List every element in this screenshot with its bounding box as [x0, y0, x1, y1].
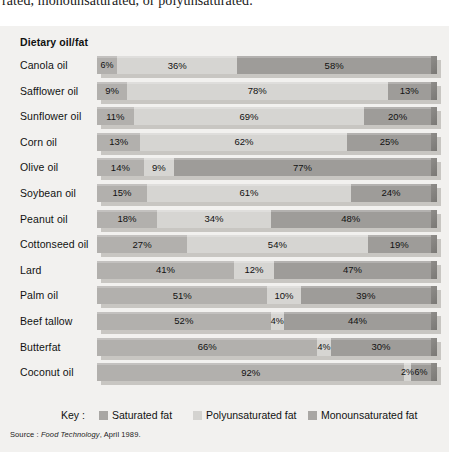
- bar-segment-value: 54%: [268, 239, 287, 250]
- bar-segment-poly: 54%: [187, 235, 367, 253]
- bar-row-label: Butterfat: [20, 341, 61, 353]
- bar-segment-value: 62%: [234, 136, 253, 147]
- stacked-bar: 9%78%13%: [97, 82, 431, 100]
- bar-segment-poly: 2%: [404, 363, 411, 381]
- bar-3d-cap: [431, 363, 437, 381]
- bar-segment-poly: 34%: [157, 210, 271, 228]
- bar-segment-value: 4%: [318, 342, 331, 352]
- bar-segment-value: 14%: [111, 162, 130, 173]
- bar-track: 14%9%77%: [97, 158, 437, 176]
- bar-segment-value: 58%: [325, 60, 344, 71]
- bar-segment-sat: 66%: [97, 338, 317, 356]
- bar-segment-value: 66%: [198, 341, 217, 352]
- bar-track: 11%69%20%: [97, 107, 437, 125]
- stacked-bar: 52%4%44%: [97, 312, 431, 330]
- bar-segment-value: 48%: [341, 213, 360, 224]
- bar-segment-value: 51%: [173, 290, 192, 301]
- legend-label: Polyunsaturated fat: [206, 409, 296, 421]
- bar-row-label: Canola oil: [20, 59, 68, 71]
- bar-segment-value: 25%: [380, 136, 399, 147]
- bar-3d-cap: [431, 133, 437, 151]
- bar-segment-mono: 20%: [364, 107, 431, 125]
- bar-segment-value: 18%: [118, 213, 137, 224]
- bar-3d-cap: [431, 158, 437, 176]
- bar-segment-value: 20%: [388, 111, 407, 122]
- bar-track: 18%34%48%: [97, 210, 437, 228]
- bar-segment-value: 9%: [152, 162, 166, 173]
- bar-track: 15%61%24%: [97, 184, 437, 202]
- bar-segment-poly: 4%: [271, 312, 284, 330]
- bar-3d-cap: [431, 56, 437, 74]
- bar-segment-poly: 10%: [267, 286, 300, 304]
- bar-segment-value: 47%: [343, 264, 362, 275]
- stacked-bar: 51%10%39%: [97, 286, 431, 304]
- bar-segment-mono: 44%: [284, 312, 431, 330]
- bar-row-label: Soybean oil: [20, 187, 76, 199]
- bar-row: Corn oil13%62%25%: [0, 131, 449, 157]
- bar-segment-poly: 61%: [147, 184, 351, 202]
- bar-segment-poly: 78%: [127, 82, 388, 100]
- bar-3d-cap: [431, 82, 437, 100]
- source-note: Source : Food Technology, April 1989.: [10, 430, 141, 439]
- bar-segment-value: 10%: [275, 290, 294, 301]
- bar-segment-poly: 36%: [117, 56, 237, 74]
- stacked-bar: 13%62%25%: [97, 133, 431, 151]
- bar-row: Butterfat66%4%30%: [0, 336, 449, 362]
- bar-segment-value: 69%: [239, 111, 258, 122]
- bar-segment-value: 44%: [348, 315, 367, 326]
- bar-segment-mono: 30%: [331, 338, 431, 356]
- stacked-bar: 6%36%58%: [97, 56, 431, 74]
- bar-3d-cap: [431, 107, 437, 125]
- bar-row: Cottonseed oil27%54%19%: [0, 233, 449, 259]
- stacked-bar: 27%54%19%: [97, 235, 431, 253]
- bar-segment-value: 39%: [356, 290, 375, 301]
- bar-segment-sat: 41%: [97, 261, 234, 279]
- bar-row-label: Cottonseed oil: [20, 238, 89, 250]
- bar-3d-cap: [431, 286, 437, 304]
- bar-track: 41%12%47%: [97, 261, 437, 279]
- bar-segment-value: 12%: [244, 264, 263, 275]
- page-body-text-fragment: rated, monounsaturated, or polyunsaturat…: [0, 0, 449, 14]
- stacked-bar: 14%9%77%: [97, 158, 431, 176]
- bar-segment-value: 36%: [168, 60, 187, 71]
- bar-segment-value: 41%: [156, 264, 175, 275]
- bar-track: 66%4%30%: [97, 338, 437, 356]
- bar-segment-mono: 48%: [271, 210, 431, 228]
- chart-legend: Key : Saturated fatPolyunsaturated fatMo…: [0, 407, 449, 425]
- bar-segment-value: 19%: [390, 239, 409, 250]
- legend-label: Saturated fat: [112, 409, 172, 421]
- bar-segment-mono: 39%: [301, 286, 431, 304]
- bar-segment-value: 13%: [109, 136, 128, 147]
- bar-3d-cap: [431, 312, 437, 330]
- bar-segment-value: 27%: [133, 239, 152, 250]
- bar-segment-sat: 18%: [97, 210, 157, 228]
- legend-item: Monounsaturated fat: [308, 409, 417, 421]
- source-prefix: Source :: [10, 430, 41, 439]
- bar-row: Canola oil6%36%58%: [0, 54, 449, 80]
- bar-track: 51%10%39%: [97, 286, 437, 304]
- bar-segment-value: 6%: [414, 367, 427, 377]
- bar-segment-sat: 15%: [97, 184, 147, 202]
- bar-segment-sat: 52%: [97, 312, 271, 330]
- bar-row-label: Sunflower oil: [20, 110, 81, 122]
- bar-segment-value: 13%: [400, 85, 419, 96]
- stacked-bar: 66%4%30%: [97, 338, 431, 356]
- bar-segment-sat: 13%: [97, 133, 140, 151]
- bar-segment-sat: 9%: [97, 82, 127, 100]
- bar-segment-value: 24%: [381, 187, 400, 198]
- bar-segment-sat: 6%: [97, 56, 117, 74]
- bar-track: 52%4%44%: [97, 312, 437, 330]
- bar-segment-value: 61%: [239, 187, 258, 198]
- bar-segment-value: 92%: [241, 367, 260, 378]
- bar-row-label: Safflower oil: [20, 85, 78, 97]
- bar-segment-sat: 11%: [97, 107, 134, 125]
- stacked-bar: 41%12%47%: [97, 261, 431, 279]
- legend-item: Saturated fat: [99, 409, 172, 421]
- bar-segment-value: 77%: [293, 162, 312, 173]
- bar-track: 27%54%19%: [97, 235, 437, 253]
- legend-swatch-poly: [193, 411, 202, 420]
- bar-segment-mono: 77%: [174, 158, 431, 176]
- bar-segment-mono: 24%: [351, 184, 431, 202]
- bar-segment-poly: 12%: [234, 261, 274, 279]
- bar-segment-value: 6%: [101, 60, 114, 70]
